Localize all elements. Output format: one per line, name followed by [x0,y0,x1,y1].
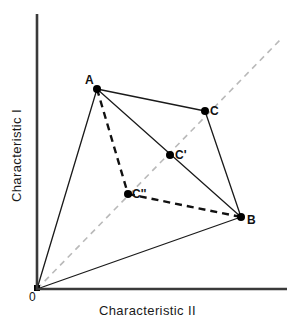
point-marker-cp [166,151,174,159]
characteristics-diagram: A C C' C'' B 0 Characteristic II Charact… [0,0,295,327]
edge-origin-a [37,89,97,289]
x-axis-label: Characteristic II [0,303,295,318]
edge-a-cpp [97,89,128,194]
point-label-a: A [85,74,94,86]
point-label-c: C [210,105,219,117]
y-axis-label: Characteristic I [9,66,24,246]
point-marker-a [93,85,101,93]
point-label-b: B [247,214,256,226]
point-marker-b [237,213,245,221]
plot-canvas [0,0,295,327]
origin-label: 0 [29,291,36,303]
edge-a-c [97,89,205,111]
point-label-c-prime: C' [175,149,187,161]
point-marker-c [201,107,209,115]
edge-origin-b [37,217,241,289]
reference-diagonal-line [37,39,281,289]
axis-group [36,14,287,290]
point-marker-cpp [124,190,132,198]
point-label-c-double-prime: C'' [132,188,146,200]
